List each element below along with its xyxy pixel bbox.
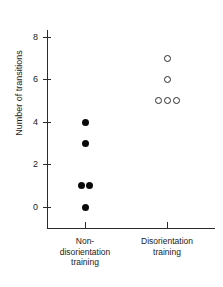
data-point-open xyxy=(155,97,162,104)
x-group-label-disorientation: Disorientation training xyxy=(124,236,210,257)
y-axis-line xyxy=(47,30,48,228)
y-tick-label-2: 2 xyxy=(22,160,38,169)
scatter-plot: Number of transitions 8 6 4 2 0 Non- dis… xyxy=(0,0,223,287)
x-tick-group-0 xyxy=(85,222,86,229)
y-tick-label-6: 6 xyxy=(22,75,38,84)
x-group-0-line-3: training xyxy=(42,257,128,268)
y-tick-4 xyxy=(43,122,51,123)
x-group-1-line-1: Disorientation xyxy=(124,236,210,247)
data-point-filled xyxy=(78,182,85,189)
y-tick-6 xyxy=(43,79,51,80)
x-group-0-line-2: disorientation xyxy=(42,247,128,258)
y-tick-2 xyxy=(43,164,51,165)
x-group-label-non-disorientation: Non- disorientation training xyxy=(42,236,128,268)
y-tick-label-0: 0 xyxy=(22,203,38,212)
data-point-filled xyxy=(82,119,89,126)
data-point-filled xyxy=(82,140,89,147)
x-tick-group-1 xyxy=(167,222,168,229)
y-tick-label-4: 4 xyxy=(22,118,38,127)
y-axis-label: Number of transitions xyxy=(14,28,24,158)
data-point-open xyxy=(164,55,171,62)
data-point-open xyxy=(164,97,171,104)
x-group-1-line-2: training xyxy=(124,247,210,258)
data-point-filled xyxy=(86,182,93,189)
data-point-open xyxy=(173,97,180,104)
data-point-filled xyxy=(82,204,89,211)
x-group-0-line-1: Non- xyxy=(42,236,128,247)
y-tick-8 xyxy=(43,37,51,38)
x-axis-line xyxy=(47,228,215,229)
y-tick-0 xyxy=(43,207,51,208)
y-tick-label-8: 8 xyxy=(22,33,38,42)
data-point-open xyxy=(164,76,171,83)
